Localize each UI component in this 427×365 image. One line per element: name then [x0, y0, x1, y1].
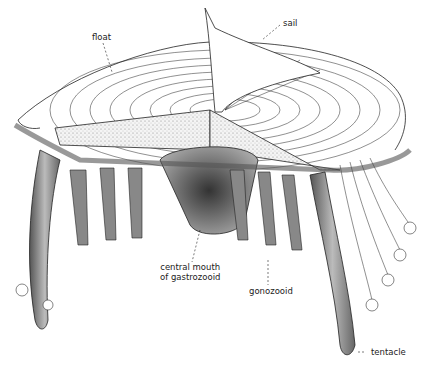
tentacle-right [310, 172, 355, 355]
label-gonozooid: gonozooid [249, 286, 293, 296]
label-tentacle: tentacle [371, 347, 406, 357]
label-central-mouth: central mouth of gastrozooid [160, 262, 220, 282]
sail [205, 8, 320, 112]
label-float: float [92, 32, 111, 42]
label-sail: sail [283, 18, 297, 28]
organism-illustration [0, 0, 427, 365]
diagram: float sail central mouth of gastrozooid … [0, 0, 427, 365]
